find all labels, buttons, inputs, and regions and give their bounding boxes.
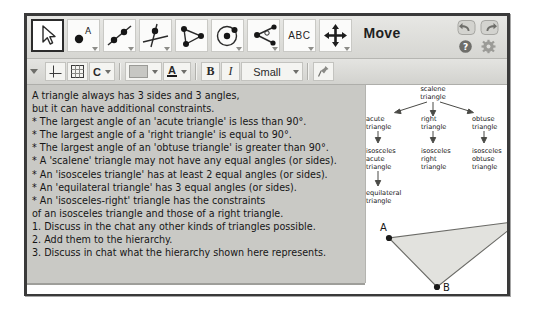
instruction-line: * The largest angle of an 'obtuse triang… xyxy=(32,141,360,154)
color-swatch xyxy=(129,65,148,78)
node-line: triangle xyxy=(472,163,497,171)
hierarchy-node-equilateral: equilateral triangle xyxy=(366,189,402,205)
node-line: acute xyxy=(366,155,385,163)
workspace: A triangle always has 3 sides and 3 angl… xyxy=(27,85,507,294)
chevron-down-icon[interactable] xyxy=(164,47,170,51)
chevron-down-icon xyxy=(181,70,187,74)
fill-color-dropdown[interactable] xyxy=(125,62,162,81)
circle-tool[interactable] xyxy=(211,19,244,52)
node-line: triangle xyxy=(421,163,446,171)
node-line: right xyxy=(421,155,437,163)
chevron-down-icon[interactable] xyxy=(272,47,278,51)
node-line: isosceles xyxy=(421,147,451,155)
node-line: right xyxy=(421,115,437,123)
point-capturing-dropdown[interactable]: C xyxy=(89,62,115,81)
node-line: triangle xyxy=(420,93,445,101)
instruction-line: but it can have additional constraints. xyxy=(32,102,360,115)
node-line: equilateral xyxy=(366,189,402,197)
instruction-line: 3. Discuss in chat what the hierarchy sh… xyxy=(32,246,360,259)
instruction-line: * The largest angle of an 'acute triangl… xyxy=(32,115,360,128)
node-line: scalene xyxy=(420,85,445,93)
node-line: obtuse xyxy=(472,115,494,123)
axes-icon xyxy=(49,65,62,78)
italic-button[interactable]: I xyxy=(221,62,240,81)
question-mark-icon[interactable]: ? xyxy=(457,39,476,54)
capturing-label: C xyxy=(93,66,101,78)
constructed-triangle: A B C xyxy=(380,204,507,293)
node-line: triangle xyxy=(472,123,497,131)
font-size-value: Small xyxy=(245,66,289,78)
view-group: C xyxy=(41,62,119,81)
lower-left-blank-area xyxy=(27,285,365,294)
hierarchy-node-obtuse: obtuse triangle xyxy=(472,115,497,131)
chevron-down-icon[interactable] xyxy=(344,47,350,51)
instruction-line: 2. Add them to the hierarchy. xyxy=(32,233,360,246)
vertex-point-a xyxy=(386,235,392,241)
bold-button[interactable]: B xyxy=(201,62,220,81)
redo-arrow-icon[interactable] xyxy=(480,20,499,35)
instruction-line: * An 'isosceles triangle' has at least 2… xyxy=(32,168,360,181)
hierarchy-node-isosceles-right: isosceles right triangle xyxy=(421,147,451,171)
geogebra-window: A xyxy=(24,13,510,296)
chevron-down-icon xyxy=(105,70,111,74)
svg-text:?: ? xyxy=(463,42,468,52)
polygon-icon xyxy=(176,20,207,51)
node-line: acute xyxy=(366,115,385,123)
style-toolbar: C A B I Small xyxy=(27,59,507,85)
instruction-line: * A 'scalene' triangle may not have any … xyxy=(32,154,360,167)
node-line: triangle xyxy=(366,163,391,171)
text-tool[interactable]: ABC xyxy=(283,19,316,52)
arrow-cursor-icon xyxy=(33,21,62,50)
show-grid-button[interactable] xyxy=(67,62,88,81)
node-line: isosceles xyxy=(472,147,502,155)
vertex-label-b: B xyxy=(443,282,450,293)
chevron-down-icon[interactable] xyxy=(308,47,314,51)
chevron-down-icon xyxy=(152,70,158,74)
vertex-point-b xyxy=(434,284,440,290)
main-toolbar: A xyxy=(27,16,507,59)
text-color-dropdown[interactable]: A xyxy=(163,62,191,81)
instruction-line: 1. Discuss in the chat any other kinds o… xyxy=(32,220,360,233)
point-tool[interactable]: A xyxy=(67,19,100,52)
instructions-text-panel[interactable]: A triangle always has 3 sides and 3 angl… xyxy=(27,85,366,283)
chevron-down-icon[interactable] xyxy=(92,47,98,51)
undo-arrow-icon[interactable] xyxy=(457,20,476,35)
instruction-line: * The largest angle of a 'right triangle… xyxy=(32,128,360,141)
collapse-style-bar-button[interactable] xyxy=(27,59,41,84)
chevron-down-icon[interactable] xyxy=(128,47,134,51)
gear-icon[interactable] xyxy=(480,39,499,54)
graphics-view[interactable]: scalene triangle acute triangle right tr… xyxy=(366,85,507,294)
pin-group xyxy=(309,62,338,81)
node-line: triangle xyxy=(421,123,446,131)
horizontal-splitter[interactable] xyxy=(27,283,365,285)
tool-palette: A xyxy=(31,19,352,52)
instruction-line: * An 'isosceles-right' triangle has the … xyxy=(32,194,360,207)
instructions-lines: A triangle always has 3 sides and 3 angl… xyxy=(27,85,365,259)
node-line: obtuse xyxy=(472,155,494,163)
instruction-line: * An 'equilateral triangle' has 3 equal … xyxy=(32,181,360,194)
hierarchy-node-right: right triangle xyxy=(421,115,446,131)
node-line: triangle xyxy=(366,197,391,205)
font-size-dropdown[interactable]: Small xyxy=(241,62,303,81)
pin-to-screen-button[interactable] xyxy=(313,62,334,81)
angle-tool[interactable] xyxy=(247,19,280,52)
line-tool[interactable] xyxy=(103,19,136,52)
current-mode-label: Move xyxy=(327,25,437,41)
color-group: A xyxy=(121,62,195,81)
text-color-label: A xyxy=(167,66,177,77)
chevron-down-icon[interactable] xyxy=(236,47,242,51)
svg-text:A: A xyxy=(85,26,92,36)
chevron-down-icon xyxy=(30,69,38,74)
show-axes-button[interactable] xyxy=(45,62,66,81)
font-group: B I Small xyxy=(197,62,307,81)
grid-icon xyxy=(71,65,84,78)
instruction-line: of an isosceles triangle and those of a … xyxy=(32,207,360,220)
window-buttons: ? xyxy=(457,20,503,54)
move-tool[interactable] xyxy=(31,19,64,52)
node-line: isosceles xyxy=(366,147,396,155)
perpendicular-line-tool[interactable] xyxy=(139,19,172,52)
polygon-tool[interactable] xyxy=(175,19,208,52)
hierarchy-node-acute: acute triangle xyxy=(366,115,391,131)
hierarchy-node-isosceles-obtuse: isosceles obtuse triangle xyxy=(472,147,502,171)
hierarchy-node-isosceles-acute: isosceles acute triangle xyxy=(366,147,396,171)
